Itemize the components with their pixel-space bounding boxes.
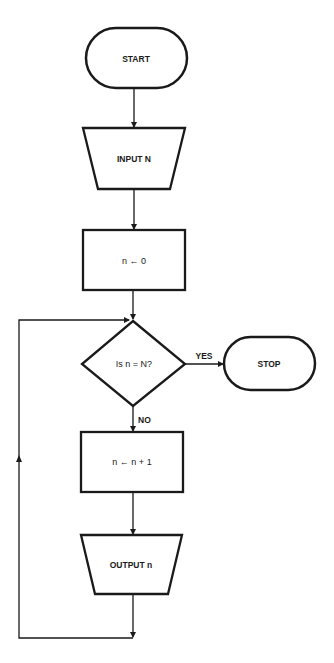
- input-node: INPUT N: [83, 128, 185, 189]
- stop-label: STOP: [258, 359, 281, 369]
- yes-label: YES: [195, 351, 212, 361]
- start-node: START: [86, 28, 187, 88]
- no-label: NO: [138, 415, 151, 425]
- flowchart: START INPUT N n ← 0 Is n = N? YES STOP N…: [0, 0, 334, 663]
- decision-label: Is n = N?: [116, 359, 152, 369]
- stop-node: STOP: [224, 337, 315, 390]
- output-label: OUTPUT n: [110, 560, 153, 570]
- init-label: n ← 0: [122, 256, 146, 266]
- loop-up-arrow-icon: [16, 455, 22, 462]
- init-node: n ← 0: [83, 230, 185, 290]
- decision-node: Is n = N?: [82, 321, 185, 406]
- increment-label: n ← n + 1: [112, 457, 151, 467]
- start-label: START: [122, 54, 151, 64]
- output-node: OUTPUT n: [81, 535, 182, 594]
- increment-node: n ← n + 1: [81, 432, 183, 492]
- input-label: INPUT N: [117, 154, 151, 164]
